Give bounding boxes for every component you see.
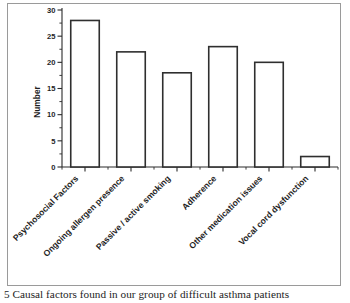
category-label: Adherence [180,173,219,212]
y-tick-labels: 051015202530 [47,6,56,172]
y-tick-label: 25 [47,32,56,41]
y-axis-title-text: Number [32,85,42,117]
bar-chart: 051015202530 Psychosocial FactorsOngoing… [0,0,350,290]
category-labels: Psychosocial FactorsOngoing allergen pre… [11,173,311,259]
category-label: Other medication issues [187,173,265,251]
bar [71,20,100,167]
x-axis [62,167,338,172]
figure-caption: 5 Causal factors found in our group of d… [4,288,348,303]
bar [117,52,146,167]
y-axis-title: Number [32,85,42,117]
y-tick-label: 5 [51,137,56,146]
bar [163,73,192,167]
bar [301,157,330,167]
y-tick-label: 0 [51,163,55,172]
category-label: Passive / active smoking [94,173,173,252]
bars-group [71,20,330,167]
bar [255,62,284,167]
y-tick-label: 30 [47,6,55,15]
category-label: Ongoing allergen presence [41,173,127,259]
y-tick-label: 20 [47,58,55,67]
y-axis [58,8,63,167]
figure-container: 051015202530 Psychosocial FactorsOngoing… [0,0,350,303]
y-tick-label: 15 [47,84,56,93]
y-tick-label: 10 [47,110,55,119]
bar [209,47,238,167]
